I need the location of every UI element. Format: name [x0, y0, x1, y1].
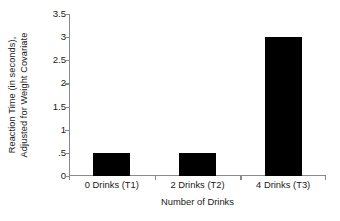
x-axis-tick-labels: 0 Drinks (T1)2 Drinks (T2)4 Drinks (T3): [69, 179, 326, 195]
x-axis-tick-label: 2 Drinks (T2): [155, 179, 241, 190]
y-axis-tick-label: 2: [42, 79, 66, 89]
bar: [93, 153, 130, 176]
y-axis-tick-label: 1: [42, 125, 66, 135]
bar: [265, 37, 302, 176]
y-axis-title-line-1: Reaction Time (in seconds),: [7, 37, 17, 154]
bar: [179, 153, 216, 176]
bar-series: [69, 14, 326, 176]
x-axis-tick-label: 4 Drinks (T3): [240, 179, 326, 190]
x-axis-tick-label: 0 Drinks (T1): [69, 179, 155, 190]
y-axis-tick-labels: 0.511.522.533.5: [42, 0, 66, 221]
y-axis-tick-label: 1.5: [42, 102, 66, 112]
plot-area: [69, 14, 326, 176]
y-axis-title-line-2: Adjusted for Weight Covariate: [19, 33, 29, 158]
bar-chart-figure: Reaction Time (in seconds), Adjusted for…: [0, 0, 340, 221]
y-axis-tick-label: 3: [42, 32, 66, 42]
y-axis-tick-label: 2.5: [42, 55, 66, 65]
y-axis-tick-label: 0: [42, 171, 66, 181]
y-axis-title: Reaction Time (in seconds), Adjusted for…: [0, 0, 42, 190]
y-axis-tick-label: 3.5: [42, 9, 66, 19]
x-axis-title: Number of Drinks: [69, 196, 326, 207]
y-axis-tick-label: .5: [42, 148, 66, 158]
